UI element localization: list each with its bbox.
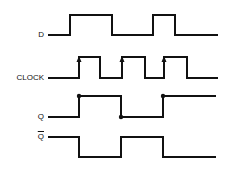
timing-diagram: D CLOCK Q Q [0,0,227,172]
waveform-q [48,96,216,117]
waveform-clock [48,57,218,78]
transition-dot-icon [119,115,123,119]
waveforms [0,0,227,172]
waveform-q-bar [48,137,216,157]
transition-dot-icon [161,94,165,98]
waveform-d [48,15,218,35]
transition-dot-icon [77,94,81,98]
